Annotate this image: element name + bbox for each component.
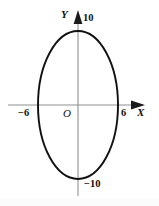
bottom-edge-band bbox=[0, 199, 159, 206]
ellipse-figure: Y X 10 −10 6 −6 O bbox=[0, 0, 159, 206]
origin-label: O bbox=[63, 108, 71, 119]
x-axis-label: X bbox=[137, 107, 144, 118]
x-tick-label-negative-6: −6 bbox=[18, 108, 29, 119]
x-tick-label-positive-6: 6 bbox=[121, 108, 126, 119]
y-axis-arrow-icon bbox=[74, 10, 83, 24]
coordinate-plot-canvas bbox=[0, 0, 159, 206]
y-axis-label: Y bbox=[61, 9, 68, 20]
y-tick-label-negative-10: −10 bbox=[84, 179, 100, 190]
y-tick-label-positive-10: 10 bbox=[83, 13, 94, 24]
